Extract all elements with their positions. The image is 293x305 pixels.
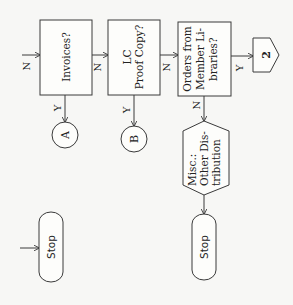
edge-label-lc-orders: N: [161, 62, 172, 71]
misc-label-line1: Misc.:: [186, 154, 198, 186]
orders-decision: Orders from Member Li- braries?: [178, 22, 231, 96]
lc-proof-copy-decision: LC Proof Copy?: [108, 20, 160, 95]
lc-to-b-arrow: Y: [121, 95, 134, 126]
flowchart-diagram: N Invoices? N LC Proof Copy? N Orders fr…: [0, 0, 293, 305]
stop-terminator-right: Stop: [192, 214, 216, 280]
orders-label-line2: Member Li-: [194, 28, 206, 91]
connector-b: B: [121, 126, 147, 152]
stop-right-label: Stop: [198, 235, 210, 259]
lc-to-orders-arrow: N: [160, 55, 178, 71]
connector-a-label: A: [59, 130, 72, 140]
lc-proof-label-line1: LC: [121, 49, 133, 64]
stop-terminator-left: Stop: [39, 212, 63, 282]
orders-to-connector-2-arrow: Y: [231, 56, 253, 72]
orders-label-line1: Orders from: [181, 26, 193, 92]
misc-label-line3: tribution: [210, 139, 222, 186]
edge-label-orders-misc: N: [191, 100, 202, 109]
invoices-to-lc-arrow: N: [92, 55, 108, 71]
edge-label-lc-b: Y: [121, 106, 132, 114]
lc-proof-label-line2: Proof Copy?: [133, 24, 145, 89]
orders-label-line3: braries?: [207, 37, 219, 81]
orders-to-misc-arrow: N: [191, 96, 204, 121]
misc-label-line2: Other Dis-: [198, 131, 210, 186]
invoices-decision: Invoices?: [40, 20, 92, 95]
connector-b-label: B: [128, 135, 141, 143]
stop-left-label: Stop: [45, 235, 57, 259]
invoices-to-a-arrow: Y: [52, 95, 65, 122]
edge-label-entry: N: [21, 61, 32, 70]
connector-a: A: [52, 122, 78, 148]
entry-arrow: N: [21, 55, 40, 70]
edge-label-invoices-a: Y: [52, 104, 63, 112]
edge-label-invoices-lc: N: [92, 62, 103, 71]
off-page-connector-2: 2: [253, 38, 279, 72]
misc-distribution-process: Misc.: Other Dis- tribution: [183, 121, 229, 195]
edge-label-orders-2: Y: [234, 64, 245, 72]
invoices-label: Invoices?: [60, 32, 72, 82]
connector-2-label: 2: [260, 51, 273, 59]
